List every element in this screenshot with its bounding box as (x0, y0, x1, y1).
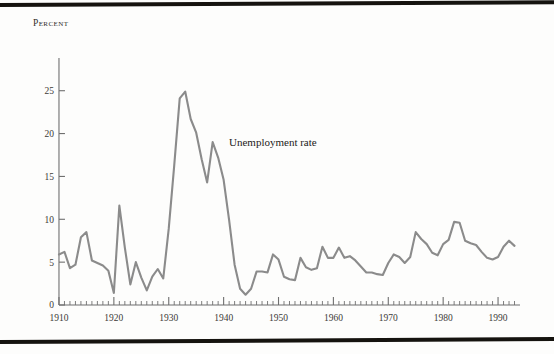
x-tick-label: 1920 (104, 313, 123, 323)
series-line-unemployment-rate (59, 92, 515, 295)
x-tick-label: 1960 (324, 313, 343, 323)
unemployment-line-chart: 0510152025 19101920193019401950196019701… (0, 0, 554, 354)
x-axis-minor-ticks (64, 301, 514, 305)
y-tick-label: 15 (44, 172, 54, 182)
x-tick-label: 1950 (269, 313, 288, 323)
x-tick-label: 1980 (434, 313, 453, 323)
y-axis-tick-labels: 0510152025 (44, 86, 54, 310)
x-tick-label: 1930 (159, 313, 178, 323)
x-axis-tick-labels: 191019201930194019501960197019801990 (49, 313, 507, 323)
series-paths (59, 92, 515, 295)
series-annotation-unemployment-rate: Unemployment rate (229, 136, 317, 148)
y-tick-label: 20 (44, 129, 54, 139)
x-tick-label: 1940 (214, 313, 233, 323)
y-tick-label: 25 (44, 86, 54, 96)
x-tick-label: 1910 (49, 313, 68, 323)
y-tick-label: 0 (49, 300, 54, 310)
y-axis-ticks (59, 91, 65, 305)
y-tick-label: 10 (44, 215, 54, 225)
x-tick-label: 1970 (379, 313, 398, 323)
y-tick-label: 5 (49, 258, 54, 268)
x-tick-label: 1990 (489, 313, 508, 323)
y-axis-title: Percent (33, 18, 68, 28)
chart-canvas: 0510152025 19101920193019401950196019701… (0, 0, 554, 354)
figure-page: 0510152025 19101920193019401950196019701… (0, 0, 554, 354)
